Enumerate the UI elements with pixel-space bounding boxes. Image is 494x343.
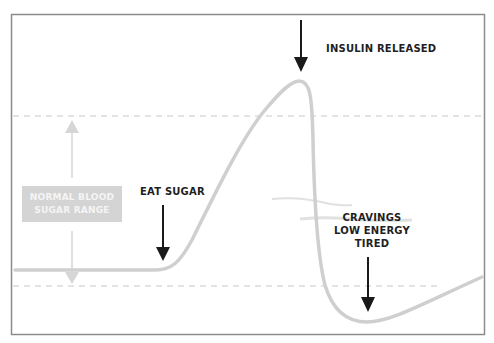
normal-blood-text: NORMAL BLOOD (22, 191, 122, 204)
low-energy-text: LOW ENERGY (322, 224, 422, 237)
normal-range-label-box: NORMAL BLOOD SUGAR RANGE (22, 186, 122, 222)
sugar-range-text: SUGAR RANGE (22, 204, 122, 217)
eat-sugar-arrow-icon (156, 205, 170, 261)
insulin-released-label: INSULIN RELEASED (326, 43, 436, 54)
insulin-arrow-icon (294, 20, 308, 72)
crash-arrow-icon (361, 257, 375, 312)
eat-sugar-label: EAT SUGAR (140, 186, 205, 197)
tired-text: TIRED (322, 237, 422, 250)
crash-symptoms-label: CRAVINGS LOW ENERGY TIRED (322, 211, 422, 250)
cravings-text: CRAVINGS (322, 211, 422, 224)
